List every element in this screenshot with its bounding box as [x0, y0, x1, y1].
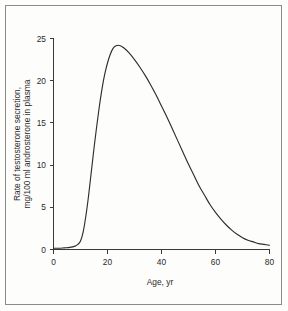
testosterone-secretion-curve	[54, 45, 270, 248]
y-axis-title-line1: Rate of testosterone secretion,	[12, 87, 22, 201]
y-tick-label-25: 25	[37, 34, 47, 44]
x-tick-label-0: 0	[51, 257, 56, 267]
y-tick-label-10: 10	[37, 160, 47, 170]
x-tick-label-60: 60	[211, 257, 221, 267]
x-axis-tick-labels: 0 20 40 60 80	[51, 257, 274, 267]
figure-root: 0 5 10 15 20 25 0 20 40 60 80 Age, yr Ra…	[0, 0, 288, 311]
y-axis-title: Rate of testosterone secretion, mg/100 m…	[12, 79, 32, 208]
x-tick-label-40: 40	[157, 257, 167, 267]
x-tick-label-20: 20	[103, 257, 113, 267]
chart-plot-area: 0 5 10 15 20 25 0 20 40 60 80 Age, yr Ra…	[0, 0, 288, 311]
y-axis-title-line2: mg/100 ml androsterone in plasma	[22, 79, 32, 208]
x-axis-ticks	[54, 250, 270, 255]
y-tick-label-5: 5	[41, 202, 46, 212]
y-tick-label-15: 15	[37, 118, 47, 128]
y-axis-ticks	[50, 39, 54, 250]
x-tick-label-80: 80	[265, 257, 275, 267]
x-axis-title: Age, yr	[147, 277, 174, 287]
y-tick-label-20: 20	[37, 76, 47, 86]
y-axis-tick-labels: 0 5 10 15 20 25	[37, 34, 47, 255]
y-tick-label-0: 0	[41, 245, 46, 255]
